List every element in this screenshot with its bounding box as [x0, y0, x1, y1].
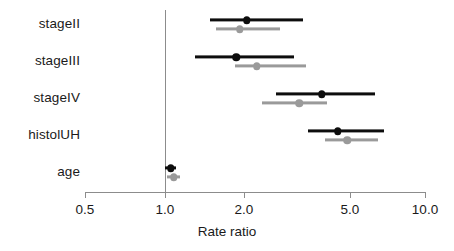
x-axis-tick-4: [425, 192, 426, 198]
x-axis-tick-label-4: 10.0: [412, 202, 438, 217]
x-axis-tick-label-1: 1.0: [156, 202, 175, 217]
x-axis-tick-3: [350, 192, 351, 198]
estimate-dot-age-gray: [170, 173, 178, 181]
plot-area: [0, 0, 454, 251]
reference-line-at-one: [165, 10, 166, 192]
estimate-dot-stageiv-black: [318, 90, 326, 98]
x-axis-tick-1: [165, 192, 166, 198]
estimate-dot-stageiii-black: [233, 53, 241, 61]
x-axis-tick-label-2: 2.0: [235, 202, 254, 217]
x-axis-tick-2: [244, 192, 245, 198]
estimate-dot-stageiv-gray: [296, 99, 304, 107]
estimate-dot-histoluh-black: [334, 127, 342, 135]
estimate-dot-stageii-black: [243, 16, 251, 24]
ci-line-stageii-gray: [216, 27, 279, 30]
ci-line-histoluh-gray: [325, 138, 379, 141]
forest-plot: stageII stageIII stageIV histolUH age 0.…: [0, 0, 454, 251]
estimate-dot-stageiii-gray: [253, 62, 261, 70]
ci-line-stageiv-black: [276, 92, 375, 95]
x-axis-title: Rate ratio: [0, 224, 454, 239]
ci-line-stageii-black: [210, 18, 302, 21]
x-axis-tick-0: [85, 192, 86, 198]
ci-line-stageiii-black: [195, 55, 294, 58]
estimate-dot-age-black: [167, 164, 175, 172]
estimate-dot-histoluh-gray: [344, 136, 352, 144]
x-axis-line: [85, 192, 425, 193]
ci-line-histoluh-black: [308, 129, 384, 132]
ci-line-stageiii-gray: [235, 64, 306, 67]
x-axis-tick-label-0: 0.5: [76, 202, 95, 217]
estimate-dot-stageii-gray: [236, 25, 244, 33]
x-axis-tick-label-3: 5.0: [341, 202, 360, 217]
